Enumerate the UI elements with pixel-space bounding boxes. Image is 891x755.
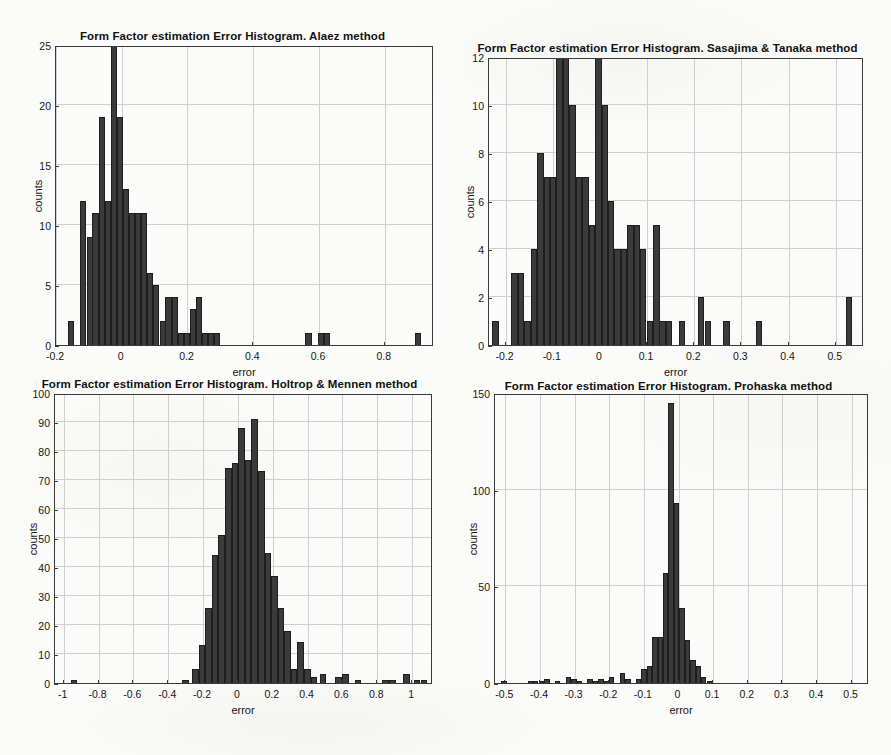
y-tick-mark — [54, 452, 58, 453]
histogram-bar — [846, 297, 852, 345]
plot-area-sasajima-tanaka: -0.2-0.100.10.20.30.40.5024681012errorco… — [450, 28, 885, 358]
gridline-vertical — [99, 395, 100, 683]
y-tick-label: 20 — [38, 620, 50, 632]
histogram-bar — [544, 679, 549, 683]
x-tick-label: 0.3 — [774, 688, 789, 700]
x-tick-label: 0.4 — [299, 688, 314, 700]
y-tick-mark — [54, 394, 58, 395]
y-tick-mark — [488, 106, 492, 107]
x-tick-label: -0.8 — [89, 688, 107, 700]
y-tick-mark — [488, 154, 492, 155]
gridline-horizontal — [495, 489, 867, 490]
gridline-horizontal — [489, 104, 862, 105]
x-axis-label: error — [664, 366, 687, 378]
gridline-vertical — [748, 395, 749, 683]
y-tick-mark — [488, 202, 492, 203]
gridline-vertical — [609, 395, 610, 683]
y-tick-mark — [55, 346, 59, 347]
y-tick-label: 30 — [38, 591, 50, 603]
y-tick-mark — [54, 597, 58, 598]
x-tick-label: -0.5 — [495, 688, 513, 700]
x-tick-label: 0.4 — [780, 350, 795, 362]
y-tick-mark — [494, 394, 498, 395]
histogram-bar — [756, 321, 762, 345]
gridline-vertical — [694, 59, 695, 345]
x-tick-label: 0 — [675, 688, 681, 700]
y-tick-label: 40 — [38, 562, 50, 574]
histogram-bar — [68, 321, 74, 345]
histogram-bar — [178, 333, 184, 345]
y-tick-label: 90 — [38, 417, 50, 429]
x-tick-mark — [740, 342, 741, 346]
histogram-bar — [608, 201, 614, 345]
histogram-bar — [627, 225, 633, 345]
histogram-bar — [251, 419, 258, 683]
histogram-bar — [284, 631, 291, 683]
x-tick-mark — [574, 680, 575, 684]
histogram-bar — [258, 471, 265, 683]
gridline-vertical — [56, 47, 57, 345]
x-tick-label: -0.6 — [123, 688, 141, 700]
chart-panel-alaez: Form Factor estimation Error Histogram. … — [20, 28, 445, 358]
y-tick-mark — [488, 346, 492, 347]
gridline-vertical — [852, 395, 853, 683]
y-tick-label: 50 — [478, 581, 490, 593]
y-tick-label: 10 — [472, 100, 484, 112]
histogram-bar — [80, 201, 86, 345]
x-tick-mark — [167, 680, 168, 684]
gridline-vertical — [253, 47, 254, 345]
plot-area-alaez: -0.200.20.40.60.80510152025errorcounts — [20, 28, 445, 358]
y-tick-label: 5 — [45, 280, 51, 292]
gridline-horizontal — [495, 585, 867, 586]
chart-panel-holtrop-mennen: Form Factor estimation Error Histogram. … — [14, 378, 445, 723]
gridline-vertical — [319, 47, 320, 345]
x-axis-label: error — [232, 366, 255, 378]
histogram-bar — [569, 105, 575, 345]
histogram-bar — [659, 321, 665, 345]
x-tick-label: -1 — [58, 688, 67, 700]
x-tick-mark — [816, 680, 817, 684]
histogram-bar — [202, 333, 208, 345]
histogram-bar — [271, 576, 278, 683]
histogram-bar — [129, 213, 135, 345]
histogram-bar — [192, 669, 199, 684]
gridline-vertical — [64, 395, 65, 683]
y-tick-label: 10 — [39, 220, 51, 232]
histogram-bar — [355, 680, 362, 683]
x-tick-mark — [552, 342, 553, 346]
histogram-bar — [698, 297, 704, 345]
y-tick-label: 20 — [39, 100, 51, 112]
x-tick-mark — [98, 680, 99, 684]
x-tick-mark — [643, 680, 644, 684]
gridline-vertical — [385, 47, 386, 345]
histogram-bar — [141, 213, 147, 345]
x-axis-label: error — [669, 704, 692, 716]
y-axis-label: counts — [467, 523, 479, 555]
gridline-vertical — [644, 395, 645, 683]
x-tick-label: 0.2 — [179, 350, 194, 362]
x-tick-mark — [505, 342, 506, 346]
histogram-bar — [589, 225, 595, 345]
histogram-bar — [245, 460, 252, 683]
x-tick-label: 0.2 — [739, 688, 754, 700]
x-tick-mark — [411, 680, 412, 684]
y-tick-mark — [488, 250, 492, 251]
y-tick-mark — [55, 226, 59, 227]
x-tick-mark — [63, 680, 64, 684]
y-tick-label: 70 — [38, 475, 50, 487]
x-tick-label: -0.1 — [543, 350, 561, 362]
x-tick-label: 0 — [234, 688, 240, 700]
histogram-bar — [609, 677, 614, 683]
y-tick-label: 0 — [45, 340, 51, 352]
gridline-vertical — [505, 395, 506, 683]
y-axis-label: counts — [27, 523, 39, 555]
y-tick-mark — [494, 684, 498, 685]
x-tick-mark — [539, 680, 540, 684]
x-tick-mark — [202, 680, 203, 684]
x-tick-mark — [318, 342, 319, 346]
y-tick-mark — [488, 298, 492, 299]
histogram-bar — [556, 58, 562, 345]
chart-panel-sasajima-tanaka: Form Factor estimation Error Histogram. … — [450, 28, 885, 358]
y-tick-label: 6 — [478, 196, 484, 208]
y-tick-mark — [54, 568, 58, 569]
